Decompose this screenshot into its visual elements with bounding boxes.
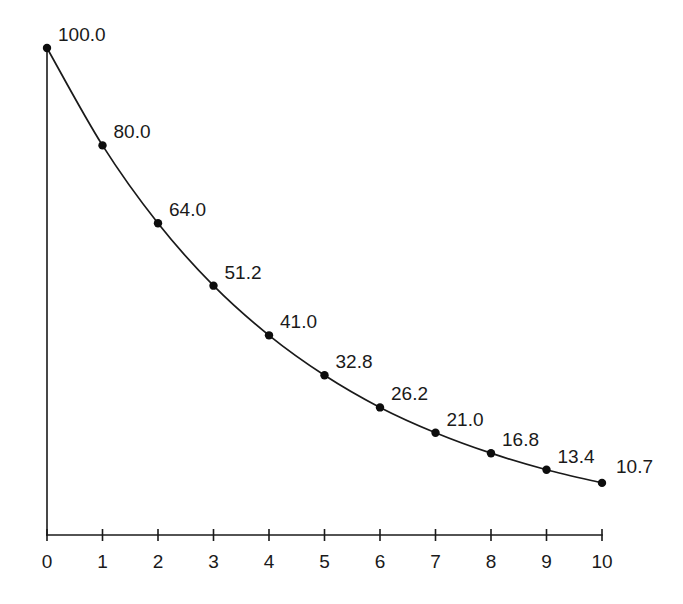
- data-point-marker: [98, 141, 106, 149]
- x-axis-tick-label: 6: [375, 551, 386, 572]
- data-point-marker: [376, 403, 384, 411]
- data-point-marker: [154, 219, 162, 227]
- x-axis-tick-label: 1: [97, 551, 108, 572]
- data-point-marker: [209, 281, 217, 289]
- data-point-marker: [431, 429, 439, 437]
- chart-background: [0, 0, 683, 604]
- data-point-value-label: 21.0: [447, 409, 484, 430]
- x-axis-tick-label: 7: [430, 551, 441, 572]
- x-axis-tick-label: 10: [591, 551, 612, 572]
- data-point-marker: [542, 466, 550, 474]
- x-axis-tick-label: 3: [208, 551, 219, 572]
- chart-container: 012345678910 100.080.064.051.241.032.826…: [0, 0, 683, 604]
- x-axis-tick-label: 5: [319, 551, 330, 572]
- data-point-marker: [487, 449, 495, 457]
- x-axis-tick-label: 2: [153, 551, 164, 572]
- data-point-value-label: 10.7: [616, 456, 653, 477]
- line-chart: 012345678910 100.080.064.051.241.032.826…: [0, 0, 683, 604]
- data-point-marker: [43, 44, 51, 52]
- data-point-value-label: 41.0: [280, 311, 317, 332]
- data-point-value-label: 100.0: [58, 24, 106, 45]
- data-point-value-label: 13.4: [558, 446, 595, 467]
- data-point-value-label: 51.2: [225, 262, 262, 283]
- x-axis-tick-label: 9: [541, 551, 552, 572]
- data-point-value-label: 32.8: [336, 351, 373, 372]
- data-point-value-label: 64.0: [169, 199, 206, 220]
- data-point-marker: [265, 331, 273, 339]
- data-point-value-label: 26.2: [391, 383, 428, 404]
- data-point-marker: [320, 371, 328, 379]
- x-axis-tick-label: 4: [264, 551, 275, 572]
- data-point-value-label: 16.8: [502, 429, 539, 450]
- x-axis-tick-label: 0: [42, 551, 53, 572]
- x-axis-tick-label: 8: [486, 551, 497, 572]
- data-point-value-label: 80.0: [114, 121, 151, 142]
- data-point-marker: [598, 479, 606, 487]
